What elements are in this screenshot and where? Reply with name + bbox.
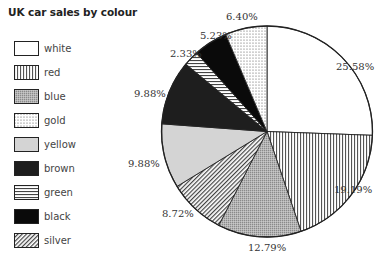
slice-label-silver: 8.72% — [162, 208, 194, 219]
slice-label-red: 19.19% — [334, 184, 372, 195]
slice-label-yellow: 9.88% — [128, 158, 160, 169]
slice-label-black: 5.23% — [200, 30, 232, 41]
slice-label-green: 2.33% — [170, 48, 202, 59]
slice-label-gold: 6.40% — [226, 11, 258, 22]
pie-chart: 25.58%19.19%12.79%8.72%9.88%9.88%2.33%5.… — [0, 0, 385, 261]
slice-label-brown: 9.88% — [134, 88, 166, 99]
slice-label-white: 25.58% — [336, 61, 374, 72]
slice-label-blue: 12.79% — [248, 242, 286, 253]
pie-slice-white — [267, 26, 372, 135]
